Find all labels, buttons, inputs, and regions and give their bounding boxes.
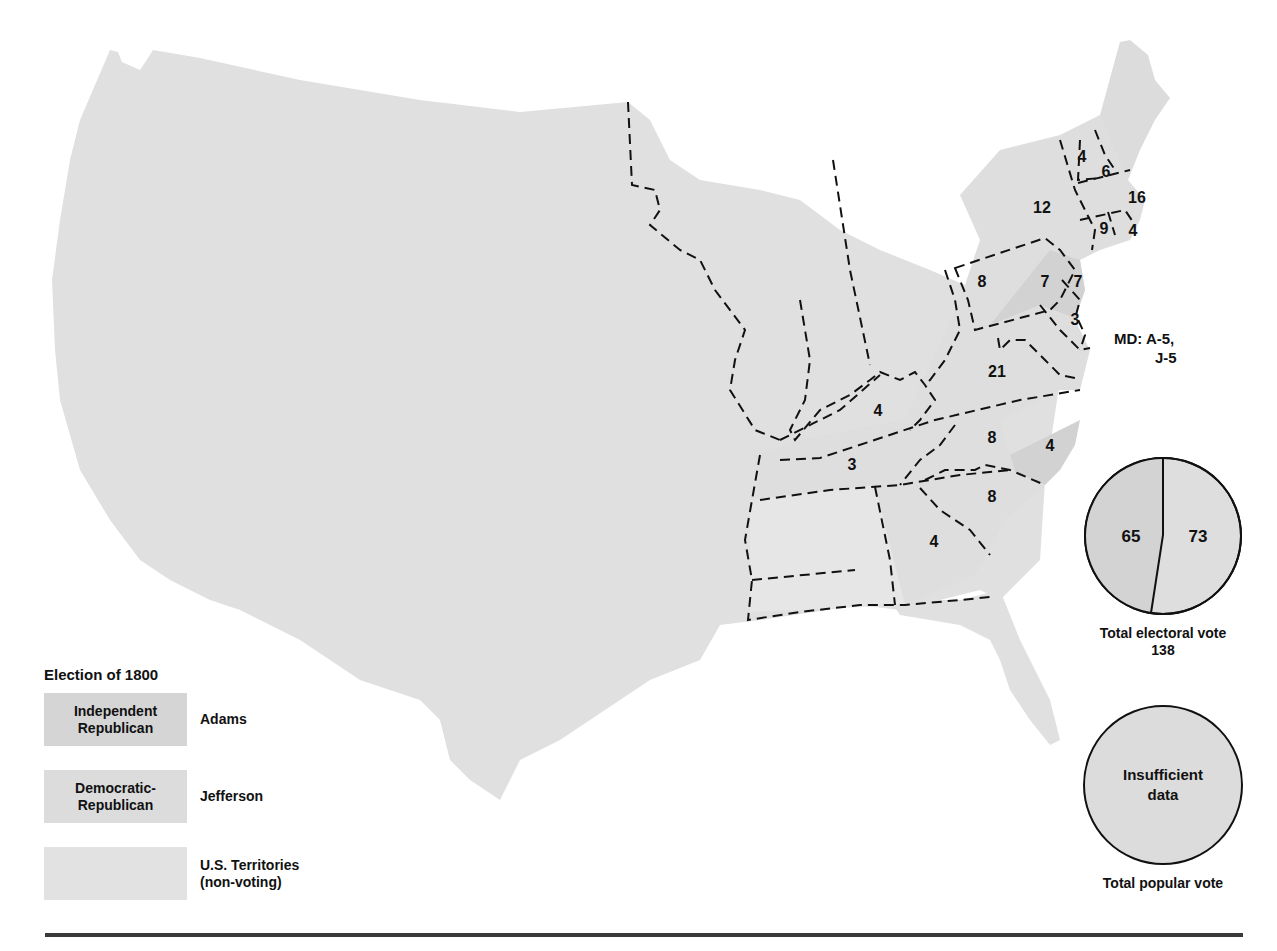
swatch-line2: Republican [75,797,156,814]
label-kentucky: 4 [874,402,883,419]
swatch-line1: Independent [74,703,157,720]
maryland-split-note: MD: A-5, J-5 [1114,329,1177,367]
territories-line2: (non-voting) [200,874,299,891]
label-connecticut: 9 [1100,220,1109,237]
label-pennsylvania-adams: 7 [1041,273,1050,290]
legend-candidate-adams: Adams [200,711,247,728]
bottom-rule [45,933,1243,937]
label-north-carolina-jefferson: 8 [988,429,997,446]
label-rhode-island: 4 [1129,222,1138,239]
label-new-jersey: 7 [1074,273,1083,290]
swatch-line1: Democratic- [75,780,156,797]
swatch-line2: Republican [74,720,157,737]
pie-value-jefferson: 73 [1189,527,1208,546]
electoral-pie-caption: Total electoral vote 138 [1063,625,1263,659]
md-note-line1: MD: A-5, [1114,330,1174,347]
label-new-york: 12 [1033,199,1051,216]
label-georgia: 4 [930,533,939,550]
legend-title: Election of 1800 [44,666,299,683]
label-north-carolina-adams: 4 [1046,437,1055,454]
legend-item-territories: U.S. Territories (non-voting) [44,847,299,900]
label-pennsylvania-jefferson: 8 [978,273,987,290]
label-new-hampshire: 6 [1102,163,1111,180]
electoral-caption-line1: Total electoral vote [1063,625,1263,642]
legend-item-adams: Independent Republican Adams [44,693,299,746]
md-note-line2: J-5 [1114,348,1177,367]
pie-value-adams: 65 [1122,527,1141,546]
territories-line1: U.S. Territories [200,857,299,874]
popular-caption-text: Total popular vote [1063,875,1263,892]
swatch-independent-republican: Independent Republican [44,693,187,746]
label-tennessee: 3 [848,456,857,473]
popular-vote-pie: Insufficient data [1084,706,1242,864]
popular-pie-line2: data [1148,786,1180,803]
popular-pie-line1: Insufficient [1123,766,1203,783]
label-massachusetts: 16 [1128,189,1146,206]
label-delaware: 3 [1071,311,1080,328]
legend: Election of 1800 Independent Republican … [44,666,299,924]
label-south-carolina: 8 [988,488,997,505]
label-vermont: 4 [1078,148,1087,165]
electoral-caption-line2: 138 [1063,642,1263,659]
legend-territories-label: U.S. Territories (non-voting) [200,857,299,891]
label-virginia: 21 [988,363,1006,380]
swatch-democratic-republican: Democratic- Republican [44,770,187,823]
electoral-vote-pie: 65 73 [1085,458,1241,614]
popular-pie-caption: Total popular vote [1063,875,1263,892]
florida [890,590,1060,745]
legend-item-jefferson: Democratic- Republican Jefferson [44,770,299,823]
legend-candidate-jefferson: Jefferson [200,788,263,805]
swatch-territories [44,847,187,900]
